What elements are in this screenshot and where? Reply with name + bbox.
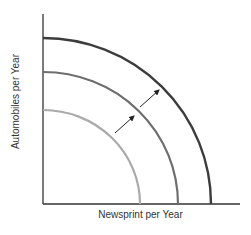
shift-arrow-1 [115, 116, 134, 133]
shift-arrow-2 [140, 90, 159, 107]
ppf-diagram [0, 0, 251, 235]
y-axis-label: Automobiles per Year [10, 42, 21, 162]
x-axis-label: Newsprint per Year [0, 209, 251, 220]
outer-ppf-curve [43, 38, 211, 204]
